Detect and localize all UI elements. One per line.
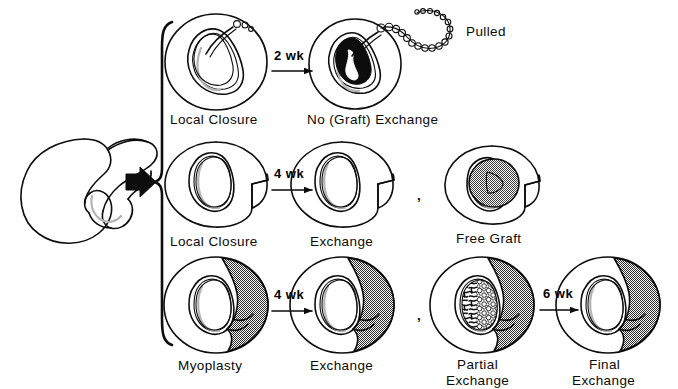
panel-label: No (Graft) Exchange bbox=[307, 112, 438, 127]
panel-label: Local Closure bbox=[170, 112, 258, 127]
schematic-figure: Local Closure 2 wk No (Graft) Exchange bbox=[0, 0, 678, 389]
panel-label: Free Graft bbox=[456, 231, 522, 246]
panel-label-line2: Exchange bbox=[572, 373, 635, 388]
comma-separator-row2: , bbox=[417, 188, 421, 203]
panel-label: Exchange bbox=[310, 234, 373, 249]
figure-root: Local Closure 2 wk No (Graft) Exchange bbox=[0, 0, 678, 389]
arrow-label: 2 wk bbox=[274, 48, 304, 63]
arrow-label: 4 wk bbox=[274, 287, 304, 302]
panel-label-line2: Exchange bbox=[446, 373, 509, 388]
panel-label: Myoplasty bbox=[178, 358, 242, 373]
panel-label-line1: Partial bbox=[457, 357, 498, 372]
arrow-label: 4 wk bbox=[274, 166, 304, 181]
comma-separator-row3: , bbox=[417, 308, 421, 323]
panel-label: Exchange bbox=[310, 358, 373, 373]
panel-label-line1: Final bbox=[589, 357, 620, 372]
arrow-label: 6 wk bbox=[543, 286, 573, 301]
panel-label: Local Closure bbox=[170, 234, 258, 249]
pulled-label: Pulled bbox=[466, 24, 506, 39]
